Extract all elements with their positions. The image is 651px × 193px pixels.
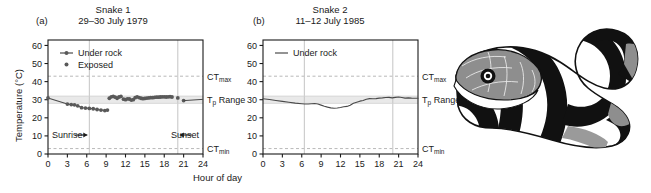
tp-range-label-trail: Range [216,95,245,105]
ctmax-label-main: CT [207,72,219,82]
ctmax-label: CTmax [207,72,232,83]
figure-container: Snake 1 29–30 July 1979 (a) [0,0,651,193]
ctmin-label: CTmin [422,144,445,155]
ctmin-label-main: CT [207,144,219,154]
snake-svg [448,0,651,193]
ctmax-label-sub: max [434,76,447,83]
ctmin-label: CTmin [207,144,230,155]
snake-pupil [486,74,491,79]
ctmin-label-sub: min [434,148,445,155]
ctmax-label: CTmax [422,72,447,83]
x-axis-label: Hour of day [193,172,242,183]
tp-range-label: Tp Range [207,95,245,107]
snake-illustration [448,0,651,193]
ctmax-label-sub: max [219,76,232,83]
annotation-labels: CTmaxTp RangeCTminCTmaxTp RangeCTmin [207,72,460,156]
ctmin-label-main: CT [422,144,434,154]
ctmin-label-sub: min [219,148,230,155]
ctmax-label-main: CT [422,72,434,82]
snake-shade-patch [608,92,638,127]
